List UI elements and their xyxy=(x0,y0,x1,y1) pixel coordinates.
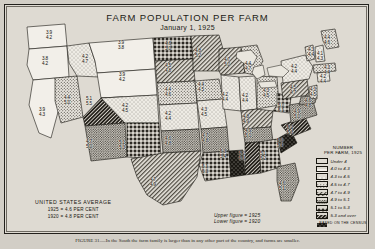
legend-swatch-stars xyxy=(316,197,328,203)
state-value-mt: 3.93.8 xyxy=(114,41,128,51)
state-value-ok: 4.64.8 xyxy=(161,137,175,147)
legend-row[interactable]: 5.1 to 5.3 xyxy=(316,204,370,211)
state-value-ut: 5.15.5 xyxy=(82,97,96,107)
state-value-ms: 5.35.4 xyxy=(216,150,230,160)
state-value-sd: 4.54.8 xyxy=(161,64,175,74)
state-value-wi: 4.75.0 xyxy=(220,58,234,68)
state-value-la: 5.15.3 xyxy=(198,165,212,175)
state-value-ga: 5.15.2 xyxy=(256,152,270,162)
average-1925: 1925 = 4.6 PER CENT xyxy=(35,207,112,212)
state-value-az: 4.75.0 xyxy=(82,140,96,150)
state-value-ne: 4.44.6 xyxy=(161,88,175,98)
legend-swatch-dots-med xyxy=(316,173,328,179)
state-value-fl: 4.65.1 xyxy=(275,182,289,192)
state-value-sc: 5.35.4 xyxy=(273,139,287,149)
state-value-in: 4.24.4 xyxy=(238,94,252,104)
lower-figure-note: Lower figure = 1920 xyxy=(214,219,260,225)
legend-row[interactable]: 4.7 to 4.9 xyxy=(316,189,370,196)
legend-swatch-hatch-dark xyxy=(316,205,328,211)
legend-label: 4.9 to 5.1 xyxy=(330,197,349,202)
map-plate: FARM POPULATION PER FARM January 1, 1925 xyxy=(4,4,369,234)
legend-swatch-solid-black xyxy=(316,212,328,218)
state-value-va: 4.95.0 xyxy=(290,110,304,120)
state-value-ar: 4.74.8 xyxy=(198,134,212,144)
legend-swatch-dots-dense xyxy=(316,189,328,195)
state-value-pa: 4.54.7 xyxy=(286,86,300,96)
state-value-al: 5.25.3 xyxy=(235,152,249,162)
state-value-mo: 4.34.5 xyxy=(197,108,211,118)
legend-row[interactable]: 4.5 to 4.7 xyxy=(316,181,370,188)
state-value-il: 4.24.4 xyxy=(218,93,232,103)
state-value-wy: 3.94.2 xyxy=(115,73,129,83)
state-value-nj: 4.34.5 xyxy=(306,88,320,98)
legend-swatch-dots-fine xyxy=(316,166,328,172)
state-value-ky: 4.84.9 xyxy=(239,115,253,125)
legend-row[interactable]: 5.3 and over xyxy=(316,212,370,219)
legend-swatch-white xyxy=(316,158,328,164)
state-nm[interactable] xyxy=(127,123,161,159)
screenshot-root: FARM POPULATION PER FARM January 1, 1925 xyxy=(0,0,375,249)
legend-row[interactable]: 4.0 to 4.3 xyxy=(316,165,370,172)
state-value-or: 3.84.2 xyxy=(38,57,52,67)
legend-label: 4.5 to 4.7 xyxy=(330,182,349,187)
legend-swatch-hatch-light xyxy=(316,181,328,187)
state-value-tn: 4.95.0 xyxy=(241,129,255,139)
state-value-mn: 4.85.2 xyxy=(191,49,205,59)
legend-label: 4.0 to 4.3 xyxy=(330,166,349,171)
state-value-oh: 4.34.5 xyxy=(259,89,273,99)
state-value-id: 4.24.7 xyxy=(78,55,92,65)
state-value-ca: 3.94.3 xyxy=(35,108,49,118)
state-value-md: 4.64.8 xyxy=(301,99,315,109)
average-1920: 1920 = 4.8 PER CENT xyxy=(35,214,112,219)
state-value-wa: 3.94.2 xyxy=(42,31,56,41)
state-value-mi: 4.44.7 xyxy=(241,62,255,72)
state-value-ny: 4.24.4 xyxy=(287,65,301,75)
legend-rows: Under 44.0 to 4.34.3 to 4.54.5 to 4.74.7… xyxy=(316,157,370,219)
us-average-box: UNITED STATES AVERAGE 1925 = 4.6 PER CEN… xyxy=(35,199,112,219)
state-value-co: 4.24.5 xyxy=(118,104,132,114)
legend-row[interactable]: 4.9 to 5.1 xyxy=(316,196,370,203)
legend-label: Under 4 xyxy=(330,159,346,164)
state-value-wv: 5.05.1 xyxy=(274,104,288,114)
legend-basis-note: BASED ON THE CENSUS xyxy=(316,221,370,225)
state-value-me: 4.44.6 xyxy=(320,36,334,46)
state-value-nd: 4.65.0 xyxy=(161,42,175,52)
legend-row[interactable]: 4.3 to 4.5 xyxy=(316,173,370,180)
state-value-nh: 4.14.3 xyxy=(313,52,327,62)
state-value-nc: 5.25.3 xyxy=(283,126,297,136)
figure-note: Upper figure = 1925 Lower figure = 1920 xyxy=(214,213,260,226)
state-value-nv: 4.45.0 xyxy=(60,96,74,106)
state-value-ia: 4.44.5 xyxy=(194,83,208,93)
state-value-ks: 4.24.4 xyxy=(161,112,175,122)
legend-row[interactable]: Under 4 xyxy=(316,157,370,164)
legend-label: 4.7 to 4.9 xyxy=(330,190,349,195)
state-value-tx: 4.74.9 xyxy=(146,178,160,188)
legend-header-line2: PER FARM, 1925 xyxy=(316,150,370,155)
map-legend: NUMBER PER FARM, 1925 Under 44.0 to 4.34… xyxy=(316,145,370,225)
legend-label: 5.1 to 5.3 xyxy=(330,205,349,210)
legend-label: 5.3 and over xyxy=(330,213,356,218)
legend-header: NUMBER PER FARM, 1925 xyxy=(316,145,370,155)
figure-caption: FIGURE 31.—In the South the farm family … xyxy=(10,238,365,249)
average-header: UNITED STATES AVERAGE xyxy=(35,199,112,205)
legend-label: 4.3 to 4.5 xyxy=(330,174,349,179)
state-value-ct: 4.24.4 xyxy=(316,75,330,85)
state-value-nm: 5.15.3 xyxy=(115,141,129,151)
state-tx[interactable] xyxy=(131,151,201,205)
